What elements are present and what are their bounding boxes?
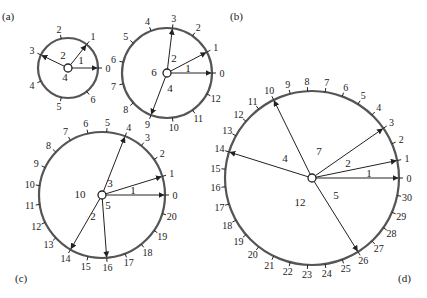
- tick-label: 0: [173, 190, 178, 201]
- tick-label: 10: [264, 85, 274, 96]
- tick-label: 2: [57, 24, 62, 35]
- tick-label: 4: [376, 102, 381, 113]
- panel-label: (a): [2, 10, 15, 23]
- tick-label: 14: [61, 253, 71, 264]
- tick-label: 8: [46, 140, 51, 151]
- tick-label: 2: [160, 148, 165, 159]
- panel-c: 01234567891011121314151617181920131052(c…: [15, 117, 178, 285]
- tick-label: 12: [31, 221, 41, 232]
- tick-label: 17: [214, 202, 224, 213]
- tick-mark: [53, 149, 56, 152]
- center-node: [98, 191, 106, 199]
- tick-mark: [243, 235, 246, 238]
- sector-label: 2: [60, 49, 66, 61]
- tick-label: 20: [248, 249, 258, 260]
- tick-label: 22: [283, 266, 293, 277]
- tick-label: 4: [145, 16, 150, 27]
- panel-label: (b): [230, 10, 243, 23]
- sector-label: 2: [171, 52, 177, 64]
- tick-label: 28: [387, 228, 397, 239]
- tick-label: 25: [341, 263, 351, 274]
- tick-label: 11: [248, 96, 258, 107]
- panel-label: (d): [398, 272, 411, 285]
- tick-label: 5: [105, 117, 110, 128]
- tick-label: 1: [169, 168, 174, 179]
- tick-label: 0: [106, 63, 111, 74]
- arrow-to-10: [274, 101, 310, 175]
- tick-label: 1: [213, 42, 218, 53]
- sector-label: 4: [167, 82, 173, 94]
- sector-label: 12: [295, 196, 306, 208]
- tick-label: 8: [123, 104, 128, 115]
- tick-label: 5: [57, 101, 62, 112]
- tick-label: 0: [407, 173, 412, 184]
- tick-label: 6: [343, 82, 348, 93]
- tick-label: 5: [361, 90, 366, 101]
- tick-label: 29: [396, 211, 406, 222]
- sector-label: 5: [105, 199, 111, 211]
- tick-mark: [87, 41, 89, 44]
- panel-b: 01234567891011121264(b): [111, 10, 243, 133]
- tick-label: 13: [222, 125, 232, 136]
- tick-label: 18: [222, 220, 232, 231]
- tick-label: 7: [324, 77, 329, 88]
- tick-label: 2: [196, 22, 201, 33]
- sector-label: 1: [78, 54, 84, 66]
- tick-label: 2: [399, 134, 404, 145]
- arrow-to-14: [71, 198, 100, 248]
- tick-label: 11: [25, 200, 35, 211]
- tick-mark: [87, 91, 89, 94]
- sector-label: 6: [151, 66, 157, 78]
- tick-label: 14: [214, 143, 224, 154]
- tick-label: 15: [81, 261, 91, 272]
- tick-label: 20: [167, 211, 177, 222]
- tick-label: 4: [126, 122, 131, 133]
- tick-label: 3: [145, 132, 150, 143]
- tick-label: 4: [29, 80, 34, 91]
- sector-label: 4: [282, 152, 288, 164]
- sector-label: 1: [366, 167, 372, 179]
- tick-label: 24: [322, 268, 332, 279]
- sector-label: 2: [90, 210, 96, 222]
- tick-label: 1: [405, 153, 410, 164]
- arrow-to-1: [316, 161, 396, 178]
- sector-label: 2: [345, 157, 351, 169]
- tick-label: 26: [358, 255, 368, 266]
- tick-label: 3: [171, 13, 176, 24]
- tick-mark: [141, 143, 143, 146]
- tick-label: 18: [143, 247, 153, 258]
- tick-label: 17: [124, 257, 134, 268]
- tick-label: 3: [389, 117, 394, 128]
- tick-mark: [325, 264, 326, 268]
- tick-mark: [325, 88, 326, 92]
- panel-label: (c): [15, 272, 28, 285]
- tick-label: 8: [305, 76, 310, 87]
- tick-label: 7: [63, 126, 68, 137]
- tick-label: 6: [83, 118, 88, 129]
- tick-label: 16: [102, 262, 112, 273]
- tick-mark: [372, 112, 375, 115]
- tick-label: 27: [374, 243, 384, 254]
- tick-label: 10: [25, 179, 35, 190]
- tick-label: 10: [169, 122, 179, 133]
- sector-label: 7: [316, 145, 322, 157]
- modular-circle-diagrams: 0123456124(a)01234567891011121264(b)0123…: [0, 0, 427, 298]
- tick-label: 9: [34, 158, 39, 169]
- tick-label: 9: [285, 79, 290, 90]
- tick-label: 3: [29, 45, 34, 56]
- tick-mark: [36, 185, 40, 186]
- sector-label: 10: [75, 188, 87, 200]
- tick-label: 13: [43, 239, 53, 250]
- tick-label: 30: [402, 192, 412, 203]
- tick-label: 7: [111, 81, 116, 92]
- tick-label: 1: [90, 31, 95, 42]
- tick-mark: [130, 103, 133, 106]
- tick-label: 9: [145, 119, 150, 130]
- tick-label: 5: [123, 31, 128, 42]
- tick-mark: [36, 204, 40, 205]
- tick-label: 23: [302, 269, 312, 280]
- tick-label: 11: [193, 113, 203, 124]
- tick-label: 19: [233, 236, 243, 247]
- center-node: [308, 174, 316, 182]
- tick-label: 16: [210, 182, 220, 193]
